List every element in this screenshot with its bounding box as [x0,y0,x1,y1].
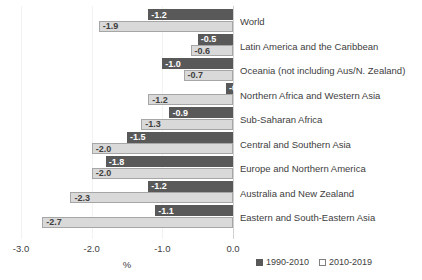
x-axis-tick-label: -3.0 [13,243,29,254]
bar-row: -1.1-2.7 [21,205,233,230]
bar-value-label: -1.1 [158,206,174,215]
x-axis-title: % [123,259,131,270]
bar-series-b[interactable]: -1.2 [148,94,233,105]
category-label: Latin America and the Caribbean [240,42,378,52]
legend-label: 2010-2019 [329,257,372,267]
bar-value-label: -2.7 [46,218,62,227]
x-axis-tick-label: 0.0 [226,243,239,254]
category-label: Sub-Saharan Africa [240,115,322,125]
bar-value-label: -0.5 [201,35,217,44]
bar-value-label: -1.2 [151,10,167,19]
bar-series-a[interactable]: -1.2 [148,9,233,20]
bar-value-label: -1.9 [103,22,119,31]
bar-row: -1.5-2.0 [21,132,233,157]
bar-series-a[interactable]: -1.2 [148,181,233,192]
bar-series-a[interactable]: -1.8 [106,156,233,167]
bar-series-b[interactable]: -0.6 [191,45,233,56]
bar-value-label: -1.3 [145,120,161,129]
bar-series-b[interactable]: -1.9 [99,21,233,32]
dark-square-icon [256,259,263,266]
light-square-icon [319,259,326,266]
bar-value-label: -0.7 [188,71,204,80]
bar-value-label: -2.0 [96,144,112,153]
bar-series-a[interactable]: -0.1 [226,83,233,94]
plot-area: -1.2-1.9-0.5-0.6-1.0-0.7-0.1-1.2-0.9-1.3… [21,6,233,239]
bar-value-label: -1.0 [165,59,181,68]
bar-series-a[interactable]: -0.5 [198,34,233,45]
bar-series-a[interactable]: -1.1 [155,205,233,216]
category-label: Northern Africa and Western Asia [240,91,380,101]
bar-value-label: -1.5 [130,133,146,142]
category-label: Oceania (not including Aus/N. Zealand) [240,66,405,76]
bar-series-a[interactable]: -1.5 [127,132,233,143]
bar-row: -1.2-2.3 [21,181,233,206]
bar-row: -0.1-1.2 [21,83,233,108]
bar-series-b[interactable]: -2.0 [92,143,233,154]
bar-series-b[interactable]: -0.7 [184,70,233,81]
bar-value-label: -1.2 [151,182,167,191]
bar-series-b[interactable]: -1.3 [141,119,233,130]
bar-value-label: -1.2 [152,95,168,104]
bar-row: -0.5-0.6 [21,34,233,59]
bar-row: -1.0-0.7 [21,58,233,83]
bar-series-b[interactable]: -2.3 [70,192,233,203]
bar-chart: -1.2-1.9-0.5-0.6-1.0-0.7-0.1-1.2-0.9-1.3… [0,0,422,280]
category-label: Eastern and South-Eastern Asia [240,213,375,223]
bar-row: -1.8-2.0 [21,156,233,181]
legend-label: 1990-2010 [266,257,309,267]
category-label: Central and Southern Asia [240,140,351,150]
chart-legend: 1990-2010 2010-2019 [256,257,372,267]
category-label: Australia and New Zealand [240,189,354,199]
bar-row: -1.2-1.9 [21,9,233,34]
zero-axis-line [233,6,234,239]
legend-item-1990-2010[interactable]: 1990-2010 [256,257,309,267]
bar-value-label: -0.9 [172,108,188,117]
bar-value-label: -2.0 [96,169,112,178]
bar-value-label: -0.6 [195,46,211,55]
legend-item-2010-2019[interactable]: 2010-2019 [319,257,372,267]
category-label: World [240,17,265,27]
x-axis-tick-label: -1.0 [154,243,170,254]
bar-row: -0.9-1.3 [21,107,233,132]
bar-value-label: -1.8 [109,157,125,166]
bar-series-b[interactable]: -2.0 [92,168,233,179]
bar-value-label: -2.3 [74,193,90,202]
bar-series-a[interactable]: -0.9 [169,107,233,118]
x-axis-tick-label: -2.0 [83,243,99,254]
bar-series-b[interactable]: -2.7 [42,217,233,228]
bar-series-a[interactable]: -1.0 [162,58,233,69]
category-label: Europe and Northern America [240,164,366,174]
